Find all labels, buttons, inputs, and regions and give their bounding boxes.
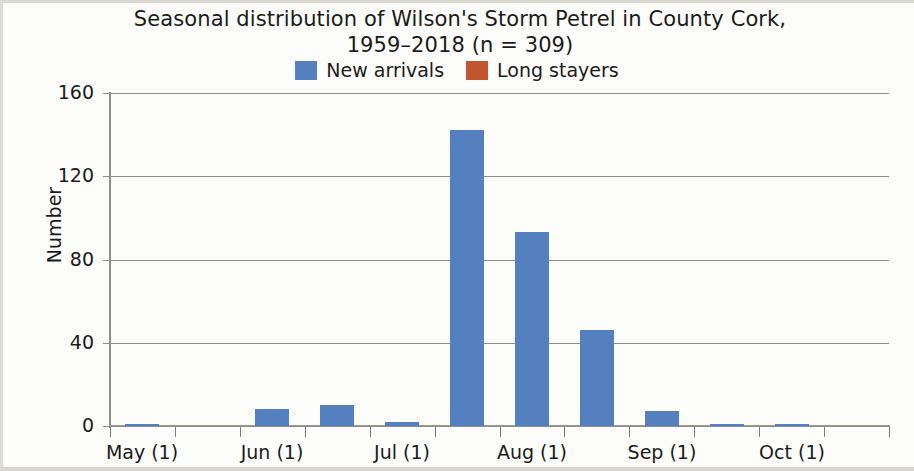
x-axis-tick <box>889 427 890 437</box>
figure-border-bottom <box>0 467 914 471</box>
chart-title-line-1: Seasonal distribution of Wilson's Storm … <box>134 7 786 31</box>
x-axis-tick-label: Jun (1) <box>212 441 332 463</box>
figure-border-top <box>0 0 914 3</box>
x-axis-tick <box>759 427 760 437</box>
x-axis-tick-label: Sep (1) <box>602 441 722 463</box>
chart-title: Seasonal distribution of Wilson's Storm … <box>60 6 860 58</box>
y-axis-tick <box>103 260 111 261</box>
legend-label: Long stayers <box>497 60 619 80</box>
x-axis-tick <box>564 427 565 437</box>
y-axis-tick-label: 120 <box>34 164 94 186</box>
x-axis-tick-label: Jul (1) <box>342 441 462 463</box>
y-axis-tick-label: 80 <box>34 248 94 270</box>
y-axis-tick-label: 40 <box>34 331 94 353</box>
x-axis-tick <box>370 427 371 437</box>
legend-item: New arrivals <box>295 60 444 80</box>
x-axis-tick <box>240 427 241 437</box>
y-axis-tick <box>103 343 111 344</box>
bar <box>775 424 809 426</box>
x-axis-tick <box>500 427 501 437</box>
x-axis-tick-label: Aug (1) <box>472 441 592 463</box>
bar <box>320 405 354 426</box>
bar <box>125 424 159 426</box>
x-axis-tick-label: May (1) <box>82 441 202 463</box>
bar <box>710 424 744 426</box>
x-axis-tick <box>305 427 306 437</box>
bar <box>580 330 614 426</box>
chart-legend: New arrivalsLong stayers <box>0 60 914 80</box>
x-axis-tick <box>824 427 825 437</box>
y-axis-tick-label: 160 <box>34 81 94 103</box>
plot-bars <box>110 93 889 426</box>
y-axis-tick-labels: Number 16012080400 <box>28 0 94 471</box>
legend-swatch-long-stayers <box>466 61 488 80</box>
y-axis-tick <box>103 176 111 177</box>
y-axis-tick <box>103 93 111 94</box>
x-axis-tick <box>629 427 630 437</box>
x-axis-tick <box>110 427 111 437</box>
chart-figure: Seasonal distribution of Wilson's Storm … <box>0 0 914 471</box>
bar <box>255 409 289 426</box>
x-axis-tick-label: Oct (1) <box>732 441 852 463</box>
legend-swatch-new-arrivals <box>295 61 317 80</box>
legend-item: Long stayers <box>466 60 619 80</box>
y-axis-tick-label: 0 <box>34 414 94 436</box>
x-axis-tick <box>435 427 436 437</box>
chart-title-line-2: 1959–2018 (n = 309) <box>60 32 860 58</box>
bar <box>450 130 484 426</box>
bar <box>385 422 419 426</box>
x-axis-tick <box>175 427 176 437</box>
bar <box>645 411 679 426</box>
bar <box>515 232 549 426</box>
x-axis-tick <box>694 427 695 437</box>
legend-label: New arrivals <box>326 60 444 80</box>
